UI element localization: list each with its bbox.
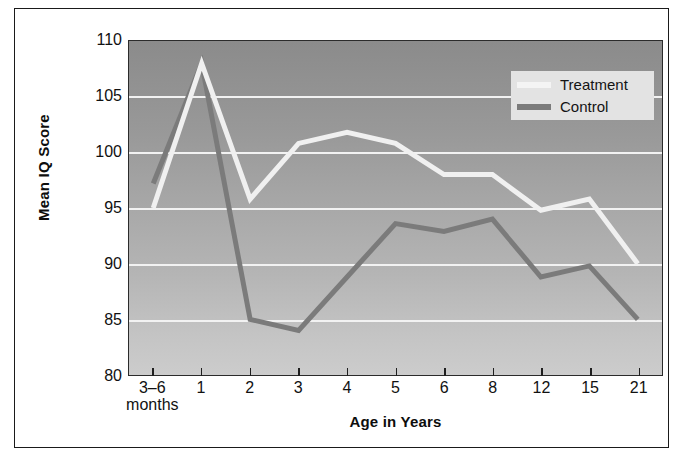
x-axis-tick-mark — [152, 368, 154, 376]
y-axis-title: Mean IQ Score — [35, 98, 52, 238]
legend-swatch-treatment-icon — [517, 82, 551, 88]
x-axis-tick-mark — [493, 368, 495, 376]
x-axis-tick-mark — [590, 368, 592, 376]
legend-label-treatment: Treatment — [560, 77, 628, 92]
x-axis-tick-mark — [541, 368, 543, 376]
x-axis-tick-mark — [444, 368, 446, 376]
x-axis-tick-mark — [201, 368, 203, 376]
x-axis-title: Age in Years — [128, 413, 663, 430]
y-axis-tick-label: 85 — [78, 312, 122, 328]
figure-frame: Mean IQ Score 80859095100105110 Treatmen… — [14, 8, 669, 448]
y-axis-tick-label: 90 — [78, 256, 122, 272]
y-axis-tick-label: 110 — [78, 32, 122, 48]
x-axis-tick-mark — [639, 368, 641, 376]
legend: Treatment Control — [511, 71, 654, 120]
y-axis-tick-label: 80 — [78, 368, 122, 384]
legend-label-control: Control — [560, 99, 608, 114]
x-axis-tick-label: 21 — [604, 379, 674, 396]
y-axis-tick-label: 95 — [78, 200, 122, 216]
legend-swatch-control-icon — [517, 104, 551, 110]
x-axis-tick-mark — [347, 368, 349, 376]
plot-area: Treatment Control — [128, 40, 663, 376]
legend-item-treatment: Treatment — [517, 74, 654, 96]
x-axis-tick-mark — [396, 368, 398, 376]
figure: Mean IQ Score 80859095100105110 Treatmen… — [0, 0, 684, 473]
y-axis-tick-labels: 80859095100105110 — [70, 40, 122, 376]
legend-item-control: Control — [517, 96, 654, 118]
y-axis-tick-label: 105 — [78, 88, 122, 104]
x-axis-tick-mark — [298, 368, 300, 376]
x-axis-tick-mark — [250, 368, 252, 376]
y-axis-tick-label: 100 — [78, 144, 122, 160]
